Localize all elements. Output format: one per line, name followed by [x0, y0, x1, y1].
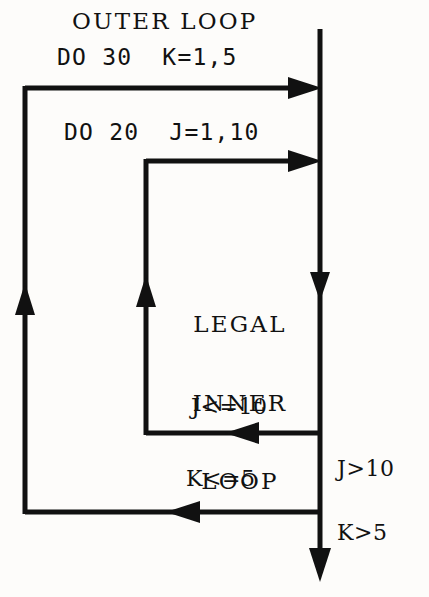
- inner-continue-condition-label: J<=10: [191, 396, 268, 418]
- inner-rail-return-arrowhead: [136, 275, 156, 307]
- inner-exit-condition-label: J>10: [337, 458, 395, 480]
- outer-loop-statement: DO 30 K=1,5: [57, 46, 238, 69]
- inner-loop-statement: DO 20 J=1,10: [64, 121, 260, 144]
- outer-exit-condition-label: K>5: [337, 522, 388, 544]
- nested-do-loop-flowchart: OUTER LOOP DO 30 K=1,5 DO 20 J=1,10 LEGA…: [0, 0, 429, 597]
- outer-rail-return-arrowhead: [15, 283, 35, 315]
- outer-loop-entry-arrowhead: [288, 77, 322, 99]
- inner-loop-body-line-1: LEGAL: [175, 308, 305, 341]
- inner-loop-entry-arrowhead: [288, 150, 322, 172]
- exit-arrowhead: [309, 548, 331, 582]
- outer-loop-caption: OUTER LOOP: [72, 10, 257, 33]
- spine-flow-arrowhead: [310, 272, 330, 301]
- outer-continue-condition-label: K<=5: [186, 468, 256, 490]
